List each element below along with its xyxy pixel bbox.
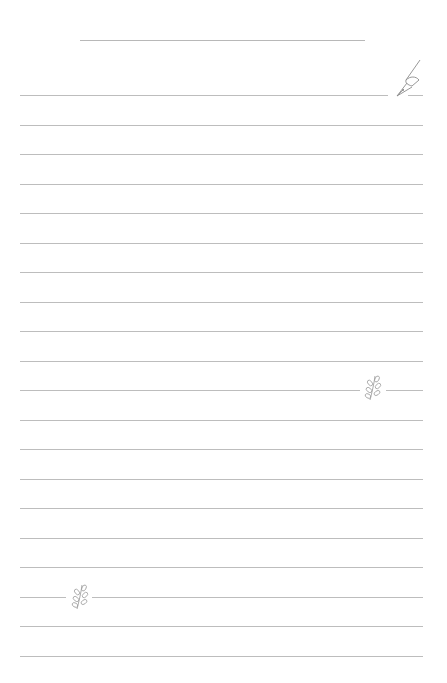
- leaf-sprig-icon: [364, 374, 384, 402]
- ruled-line: [20, 154, 423, 155]
- ruled-line: [20, 272, 423, 273]
- ruled-line-segment: [20, 390, 360, 391]
- ruled-line: [20, 125, 423, 126]
- ruled-line: [20, 302, 423, 303]
- ruled-line: [20, 626, 423, 627]
- ruled-line: [20, 243, 423, 244]
- ruled-line: [20, 184, 423, 185]
- ruled-line: [20, 479, 423, 480]
- leaf-sprig-icon: [71, 583, 91, 611]
- ruled-line: [20, 567, 423, 568]
- ruled-line: [20, 420, 423, 421]
- ruled-line: [20, 213, 423, 214]
- ruled-line: [20, 656, 423, 657]
- fountain-pen-icon: [392, 58, 426, 100]
- ruled-line: [20, 361, 423, 362]
- title-line: [80, 40, 365, 41]
- ruled-line-segment: [20, 95, 388, 96]
- ruled-line: [20, 331, 423, 332]
- ruled-line-segment: [386, 390, 423, 391]
- ruled-line-segment: [20, 597, 66, 598]
- ruled-line: [20, 449, 423, 450]
- ruled-line: [20, 538, 423, 539]
- ruled-line-segment: [92, 597, 423, 598]
- ruled-line: [20, 508, 423, 509]
